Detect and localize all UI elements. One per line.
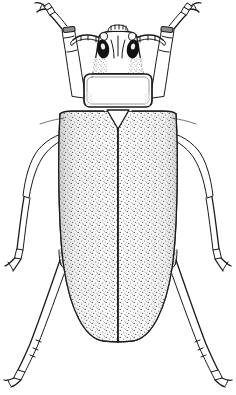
pronotum-plate <box>84 74 152 107</box>
antennal-socket-right <box>129 33 137 41</box>
figure-canvas <box>0 0 236 395</box>
pronotum-shading-right <box>144 92 151 106</box>
antennal-socket-left <box>100 33 108 41</box>
pronotum-shading-left <box>85 92 92 106</box>
foreleg-left-trochanter <box>63 26 75 32</box>
foreleg-right-trochanter <box>161 26 173 32</box>
pronotum <box>84 74 152 107</box>
midleg-right-tarsomere-1 <box>213 249 221 259</box>
beetle-illustration <box>0 0 236 395</box>
midleg-left-tarsomere-1 <box>15 249 23 259</box>
head-shading-right <box>128 58 143 74</box>
head-shading-left <box>93 58 108 74</box>
